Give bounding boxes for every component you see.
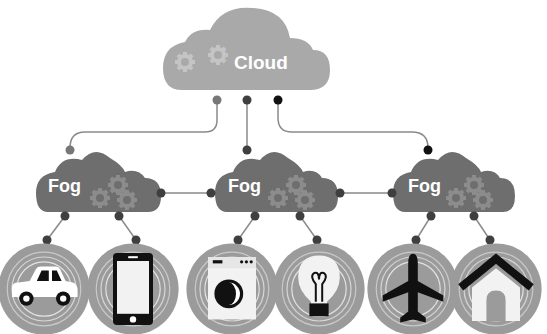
device-car (0, 243, 90, 334)
device-smartphone (87, 243, 178, 334)
device-house (450, 243, 541, 334)
device-airplane (367, 243, 458, 334)
fog-computing-diagram (0, 0, 547, 334)
washing-machine-icon (208, 257, 256, 319)
smartphone-icon (113, 253, 153, 325)
cloud-label: Cloud (234, 52, 288, 74)
fog-label-3: Fog (408, 176, 441, 197)
fog-device-connectors (47, 216, 490, 240)
cloud-node (163, 8, 330, 90)
fog-label-2: Fog (228, 176, 261, 197)
fog-label-1: Fog (48, 176, 81, 197)
device-washing-machine (186, 243, 277, 334)
device-light-bulb (273, 243, 364, 334)
cloud-fog-connectors (70, 100, 428, 152)
